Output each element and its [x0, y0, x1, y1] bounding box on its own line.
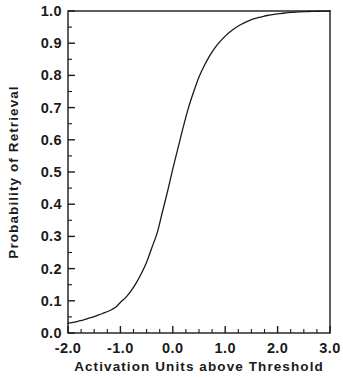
x-axis-tick-labels: -2.0-1.00.01.02.03.0	[55, 340, 341, 356]
x-tick-label: -2.0	[55, 340, 82, 356]
y-tick-label: 0.0	[41, 325, 62, 341]
y-tick-label: 0.2	[41, 261, 62, 277]
x-tick-label: 0.0	[162, 340, 183, 356]
y-tick-label: 0.8	[41, 67, 62, 83]
y-tick-label: 0.6	[41, 132, 62, 148]
y-tick-label: 1.0	[41, 3, 62, 19]
plot-frame	[68, 11, 330, 333]
y-tick-label: 0.9	[41, 35, 62, 51]
y-tick-label: 0.5	[41, 164, 62, 180]
y-tick-label: 0.1	[41, 293, 62, 309]
x-tick-label: 1.0	[215, 340, 236, 356]
x-axis-title: Activation Units above Threshold	[74, 359, 324, 374]
x-tick-label: 2.0	[267, 340, 288, 356]
y-axis-tick-labels: 0.00.10.20.30.40.50.60.70.80.91.0	[41, 3, 62, 341]
y-tick-label: 0.7	[41, 100, 62, 116]
x-tick-label: -1.0	[107, 340, 134, 356]
y-tick-label: 0.4	[41, 196, 62, 212]
x-tick-label: 3.0	[319, 340, 340, 356]
sigmoid-chart: -2.0-1.00.01.02.03.0 0.00.10.20.30.40.50…	[0, 0, 343, 377]
axes-frame	[68, 11, 330, 333]
y-tick-label: 0.3	[41, 228, 62, 244]
figure-container: -2.0-1.00.01.02.03.0 0.00.10.20.30.40.50…	[0, 0, 343, 377]
y-axis-title: Probability of Retrieval	[6, 85, 21, 258]
